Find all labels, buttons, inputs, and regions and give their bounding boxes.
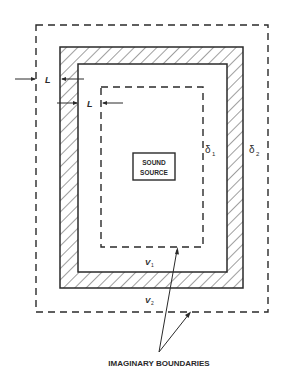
svg-text:δ: δ xyxy=(205,144,211,155)
svg-text:δ: δ xyxy=(249,144,255,155)
sound-source-label-line2: SOURCE xyxy=(140,169,168,176)
sound-source-label-line1: SOUND xyxy=(142,159,166,166)
delta2-label: δ 2 xyxy=(249,144,260,157)
svg-text:1: 1 xyxy=(151,262,154,268)
svg-text:2: 2 xyxy=(256,151,260,157)
imaginary-boundaries-caption: IMAGINARY BOUNDARIES xyxy=(108,359,210,368)
svg-text:2: 2 xyxy=(151,300,154,306)
enclosure-diagram: SOUND SOURCE δ 1 δ 2 V 1 V 2 L L xyxy=(0,0,283,378)
sound-source: SOUND SOURCE xyxy=(133,153,175,180)
dimension-inner-label: L xyxy=(87,99,93,109)
v2-label: V 2 xyxy=(145,296,154,306)
dimension-outer-label: L xyxy=(45,75,51,85)
